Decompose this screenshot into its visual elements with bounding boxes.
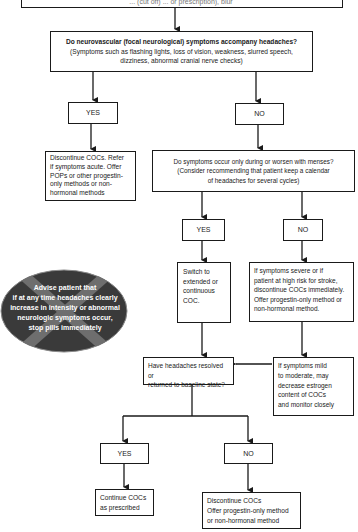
severe-line: discontinue COCs immediately. xyxy=(254,285,349,295)
advise-line: neurologic symptoms occur, xyxy=(6,313,124,323)
switch-line: COC. xyxy=(183,296,225,306)
severe-box: If symptoms severe or if patient at high… xyxy=(249,262,354,322)
question-menses-line3: of headaches for several cycles) xyxy=(208,176,300,186)
discontinue-refer-line: POPs or other progestin- xyxy=(50,172,131,181)
mild-line: decrease estrogen xyxy=(278,381,349,391)
question-resolved-line: returned to baseline state? xyxy=(148,380,229,390)
switch-box: Switch to extended or continuous COC. xyxy=(177,262,231,323)
question-neuro-line2: (Symptoms such as flashing lights, loss … xyxy=(70,47,293,57)
discontinue-refer-line: Discontinue COCs. Refer xyxy=(50,154,131,163)
severe-line: patient at high risk for stroke, xyxy=(254,276,349,286)
question-neuro-box: Do neurovascular (focal neurological) sy… xyxy=(50,31,313,72)
mild-line: to moderate, may xyxy=(278,371,349,381)
yes-box-2: YES xyxy=(182,219,225,241)
top-box-text: ... (cut off) ... or prescription), blur xyxy=(26,0,336,7)
advise-line: if at any time headaches clearly xyxy=(6,293,124,303)
mild-line: and monitor closely xyxy=(278,400,349,410)
question-menses-line2: (Consider recommending that patient keep… xyxy=(177,166,329,176)
no-label-1: NO xyxy=(254,109,265,119)
discontinue-refer-box: Discontinue COCs. Refer if symptoms acut… xyxy=(45,151,136,201)
yes-box-1: YES xyxy=(68,102,118,124)
advise-oval-text: Advise patient that if at any time heada… xyxy=(6,283,124,333)
advise-line: Advise patient that xyxy=(6,283,124,293)
severe-line: non-hormonal method. xyxy=(254,304,349,314)
switch-line: extended or xyxy=(183,277,225,287)
continue-box: Continue COCs as prescribed xyxy=(95,489,154,516)
yes-label-1: YES xyxy=(86,108,100,118)
mild-line: If symptoms mild xyxy=(278,361,349,371)
discontinue-refer-line: hormonal methods xyxy=(50,189,131,198)
switch-line: Switch to xyxy=(183,267,225,277)
continue-line: as prescribed xyxy=(100,503,149,513)
no-box-3: NO xyxy=(224,443,273,464)
severe-line: If symptoms severe or if xyxy=(254,266,349,276)
mild-box: If symptoms mild to moderate, may decrea… xyxy=(273,357,354,416)
mild-line: content of COCs xyxy=(278,390,349,400)
no-label-2: NO xyxy=(298,225,309,235)
discontinue-final-line: Discontinue COCs xyxy=(207,496,296,506)
no-box-1: NO xyxy=(235,103,284,125)
question-resolved-line: Have headaches resolved or xyxy=(148,361,229,380)
yes-label-2: YES xyxy=(196,225,210,235)
yes-label-3: YES xyxy=(117,449,131,459)
no-box-2: NO xyxy=(283,219,323,241)
advise-line: increase in intensity or abnormal xyxy=(6,303,124,313)
question-menses-box: Do symptoms occur only during or worsen … xyxy=(152,150,355,192)
advise-line: stop pills immediately xyxy=(6,323,124,333)
discontinue-final-line: or non-hormonal method xyxy=(207,516,296,526)
no-label-3: NO xyxy=(243,449,254,459)
yes-box-3: YES xyxy=(100,443,149,464)
severe-line: Offer progestin-only method or xyxy=(254,295,349,305)
discontinue-final-line: Offer progestin-only method xyxy=(207,506,296,516)
discontinue-refer-line: only methods or non- xyxy=(50,180,131,189)
question-neuro-line3: dizziness, abnormal cranial nerve checks… xyxy=(120,56,242,66)
discontinue-refer-line: if symptoms acute. Offer xyxy=(50,163,131,172)
continue-line: Continue COCs xyxy=(100,493,149,503)
question-resolved-box: Have headaches resolved or returned to b… xyxy=(143,357,234,385)
top-box: ... (cut off) ... or prescription), blur xyxy=(21,0,343,8)
discontinue-final-box: Discontinue COCs Offer progestin-only me… xyxy=(202,492,301,529)
question-neuro-title: Do neurovascular (focal neurological) sy… xyxy=(66,37,297,47)
question-menses-title: Do symptoms occur only during or worsen … xyxy=(173,157,333,167)
switch-line: continuous xyxy=(183,286,225,296)
